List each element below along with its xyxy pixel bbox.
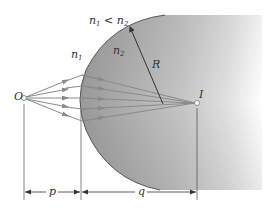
medium-1-label: n1 — [71, 48, 83, 62]
image-distance-label: q — [138, 185, 145, 198]
radius-label: R — [151, 58, 160, 71]
object-distance-label: p — [49, 185, 56, 198]
image-point — [195, 101, 200, 106]
index-condition: n1 < n2 — [89, 14, 129, 28]
image-label: I — [198, 88, 204, 101]
refraction-diagram: O I n1 < n2 n1 n2 R p q — [0, 0, 270, 211]
incident-rays — [26, 75, 82, 121]
object-label: O — [14, 90, 23, 103]
